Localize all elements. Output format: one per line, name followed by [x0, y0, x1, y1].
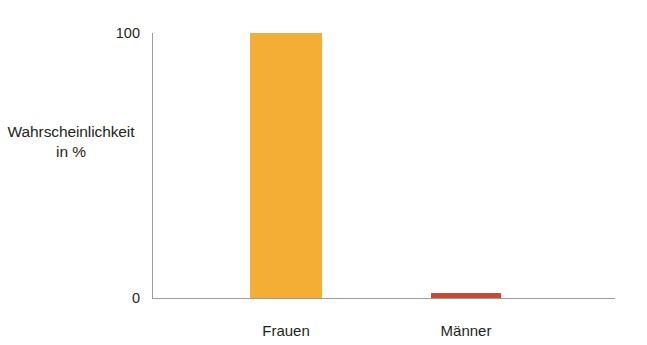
- x-category-label-maenner: Männer: [406, 322, 526, 339]
- bar-maenner: [431, 293, 501, 298]
- y-axis-label: Wahrscheinlichkeit in %: [0, 122, 144, 162]
- x-axis-line: [152, 298, 615, 299]
- bar-chart: Wahrscheinlichkeit in % 100 0 Frauen Män…: [0, 0, 647, 345]
- x-category-label-frauen: Frauen: [226, 322, 346, 339]
- plot-area: [152, 33, 615, 298]
- y-axis-label-line2: in %: [0, 142, 144, 162]
- y-tick-label-100: 100: [96, 26, 140, 41]
- y-tick-label-0: 0: [96, 291, 140, 306]
- y-axis-label-line1: Wahrscheinlichkeit: [8, 123, 135, 140]
- bar-frauen: [250, 33, 322, 298]
